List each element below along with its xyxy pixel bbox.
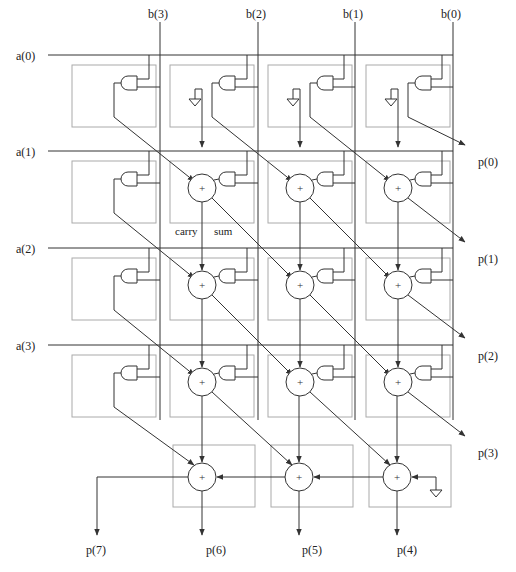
adder-plus-icon: + [297, 279, 303, 291]
a-tap [235, 345, 247, 369]
a-tap [431, 151, 442, 175]
sum-diag [310, 198, 390, 278]
a-tap [333, 345, 344, 369]
ground-wire [391, 89, 398, 147]
input-label-a2: a(2) [16, 243, 35, 255]
and-gate-icon [121, 172, 137, 186]
and-out [408, 83, 415, 117]
a-tap [137, 151, 149, 175]
a-tap [137, 248, 149, 272]
a-tap [431, 345, 442, 369]
and-gate-icon [415, 366, 431, 380]
and-gate-icon [317, 366, 333, 380]
and-gate-icon [219, 269, 235, 283]
sum-diag [212, 392, 292, 465]
and-out [114, 83, 121, 117]
a-tap [431, 248, 442, 272]
a-tap [137, 55, 149, 79]
and-gate-icon [121, 76, 137, 90]
a-tap [235, 248, 247, 272]
output-label-p1: p(1) [478, 253, 498, 265]
input-label-b2: b(2) [246, 8, 266, 20]
p-out [408, 392, 465, 436]
adder-plus-icon: + [296, 471, 302, 483]
and-gate-icon [317, 172, 333, 186]
and-gate-icon [121, 366, 137, 380]
a-tap [333, 55, 344, 79]
and-out [310, 83, 317, 117]
adder-plus-icon: + [199, 376, 205, 388]
output-label-p2: p(2) [478, 350, 498, 362]
output-label-p7: p(7) [86, 544, 106, 556]
and-gate-icon [415, 172, 431, 186]
sum-diag [310, 295, 390, 375]
and-out [114, 179, 121, 213]
output-label-p4: p(4) [397, 544, 417, 556]
and-out [212, 83, 219, 117]
adder-plus-icon: + [395, 182, 401, 194]
ground-icon [430, 490, 442, 497]
a-tap [333, 248, 344, 272]
a-tap [431, 55, 442, 79]
array-multiplier-diagram: ++++++++++++ b(3) b(2) b(1) b(0) a(0) a(… [0, 0, 516, 572]
sum-diag [212, 295, 292, 375]
and-gate-icon [317, 269, 333, 283]
adder-plus-icon: + [297, 376, 303, 388]
and-gate-icon [219, 76, 235, 90]
adder-plus-icon: + [199, 182, 205, 194]
output-label-p0: p(0) [478, 156, 498, 168]
adder-plus-icon: + [395, 279, 401, 291]
input-label-a1: a(1) [16, 146, 35, 158]
output-label-p3: p(3) [478, 447, 498, 459]
circuit-canvas: ++++++++++++ [0, 0, 516, 572]
and-out [114, 373, 121, 407]
adder-plus-icon: + [199, 279, 205, 291]
p0-wire [408, 117, 465, 145]
and-gate-icon [317, 76, 333, 90]
output-label-p6: p(6) [206, 544, 226, 556]
adder-plus-icon: + [395, 376, 401, 388]
ground-icon [287, 99, 299, 106]
and-gate-icon [219, 366, 235, 380]
and-gate-icon [121, 269, 137, 283]
diag-wire [114, 407, 194, 465]
and-gate-icon [415, 269, 431, 283]
ground-wire [195, 89, 202, 147]
ground-icon [189, 99, 201, 106]
ground-wire [293, 89, 300, 147]
and-gate-icon [415, 76, 431, 90]
sum-diag [212, 198, 292, 278]
p-out [408, 295, 465, 338]
a-tap [235, 151, 247, 175]
p7-wire [97, 477, 188, 535]
sum-diag [310, 392, 390, 465]
input-label-b1: b(1) [343, 8, 363, 20]
sum-annotation: sum [214, 226, 232, 237]
adder-plus-icon: + [394, 471, 400, 483]
input-label-b3: b(3) [148, 8, 168, 20]
carry-annotation: carry [175, 226, 198, 237]
input-label-a3: a(3) [16, 340, 35, 352]
output-label-p5: p(5) [302, 544, 322, 556]
p-out [408, 198, 465, 242]
and-gate-icon [219, 172, 235, 186]
a-tap [235, 55, 247, 79]
and-out [114, 276, 121, 310]
ground-icon [385, 99, 397, 106]
a-tap [137, 345, 149, 369]
a-tap [333, 151, 344, 175]
input-label-b0: b(0) [441, 8, 461, 20]
adder-plus-icon: + [199, 471, 205, 483]
input-label-a0: a(0) [16, 50, 35, 62]
adder-plus-icon: + [297, 182, 303, 194]
